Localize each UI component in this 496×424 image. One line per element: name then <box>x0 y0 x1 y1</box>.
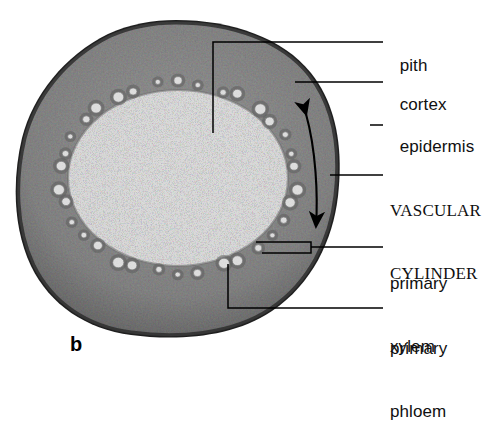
label-primary-phloem-line2: phloem <box>390 401 447 422</box>
label-cortex-text: cortex <box>400 95 447 114</box>
label-vascular-cylinder-line1: VASCULAR <box>390 200 481 221</box>
label-primary-phloem-line1: primary <box>390 338 447 359</box>
label-pith: pith <box>390 34 427 76</box>
panel-letter: b <box>70 333 82 356</box>
label-cortex: cortex <box>390 73 447 115</box>
label-epidermis-text: epidermis <box>400 137 475 156</box>
label-primary-phloem: primary phloem <box>390 296 447 424</box>
label-primary-xylem-line1: primary <box>390 273 447 294</box>
label-epidermis: epidermis <box>390 115 474 157</box>
